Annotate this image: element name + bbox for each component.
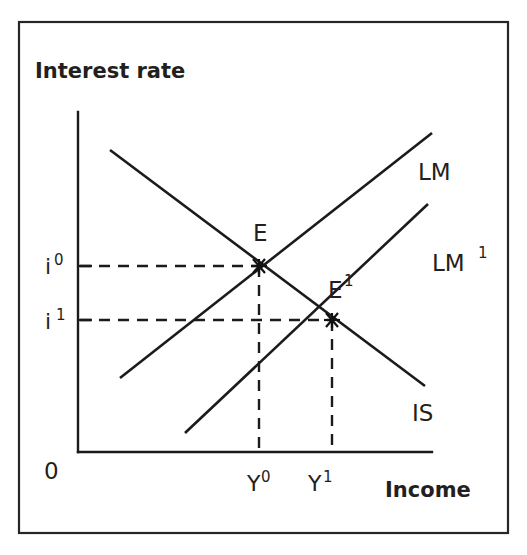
y-tick-label-i1-base: i [45, 309, 51, 334]
y-tick-label-i0-base: i [45, 254, 51, 279]
lm1-curve-label-group: LM 1 [432, 244, 488, 276]
y-tick-label-i0-superscript: 0 [54, 251, 64, 269]
equilibrium-marker-e1 [324, 313, 340, 328]
is-curve-label: IS [412, 400, 433, 426]
y-tick-label-i1-superscript: 1 [56, 306, 66, 324]
x-tick-label-y1-base: Y [307, 471, 322, 496]
y-tick-label-i1-group: i 1 [45, 306, 66, 334]
x-tick-label-y0-superscript: 0 [261, 468, 271, 486]
x-axis-title: Income [385, 478, 471, 502]
figure-border [19, 22, 508, 533]
lm1-curve-label-superscript: 1 [478, 244, 488, 262]
x-tick-label-y0-base: Y [246, 471, 261, 496]
equilibrium-label-e1: E [328, 277, 343, 303]
x-tick-label-y1-group: Y 1 [307, 468, 333, 496]
equilibrium-label-e: E [253, 220, 268, 246]
lm-curve [120, 133, 432, 378]
lm1-curve-label: LM [432, 250, 465, 276]
y-axis-title: Interest rate [35, 59, 185, 83]
x-tick-label-y0-group: Y 0 [246, 468, 271, 496]
is-lm-chart-canvas: Interest rate [0, 0, 527, 555]
x-tick-label-y1-superscript: 1 [323, 468, 333, 486]
equilibrium-label-e1-group: E 1 [328, 272, 354, 303]
lm1-curve [185, 204, 428, 433]
origin-label: 0 [44, 458, 59, 484]
is-curve [110, 150, 425, 386]
equilibrium-label-e1-superscript: 1 [344, 272, 354, 290]
is-lm-figure: Interest rate [0, 0, 527, 555]
y-tick-label-i0-group: i 0 [45, 251, 64, 279]
lm-curve-label: LM [418, 159, 451, 185]
equilibrium-marker-e [251, 259, 267, 274]
